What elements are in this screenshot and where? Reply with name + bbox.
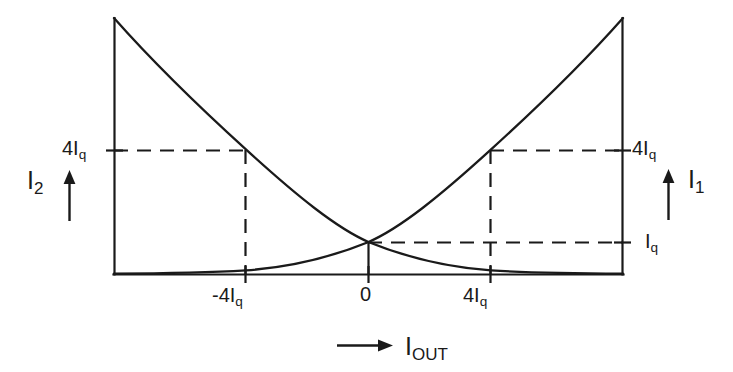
curve-i2 <box>114 18 623 274</box>
y-axis-right-label-i1: I1 <box>688 167 704 192</box>
y-axis-left-label-i2: I2 <box>27 168 43 193</box>
right-arrow-icon-xaxis <box>337 339 393 351</box>
curve-i1 <box>114 18 623 274</box>
up-arrow-icon-right <box>663 169 675 220</box>
x-axis-tick-label-4iq: 4Iq <box>463 285 487 305</box>
y-axis-right-tick-label-4iq: 4Iq <box>632 138 656 158</box>
x-axis-tick-label-zero: 0 <box>360 284 371 304</box>
x-axis-title-iout: IOUT <box>405 334 448 359</box>
up-arrow-icon-left <box>64 170 76 221</box>
x-axis-tick-label-neg4iq: -4Iq <box>212 285 243 305</box>
y-axis-right-tick-label-iq: Iq <box>645 231 658 251</box>
current-mirror-transfer-characteristic-diagram <box>0 0 733 372</box>
y-axis-left-tick-label-4iq: 4Iq <box>62 138 86 158</box>
